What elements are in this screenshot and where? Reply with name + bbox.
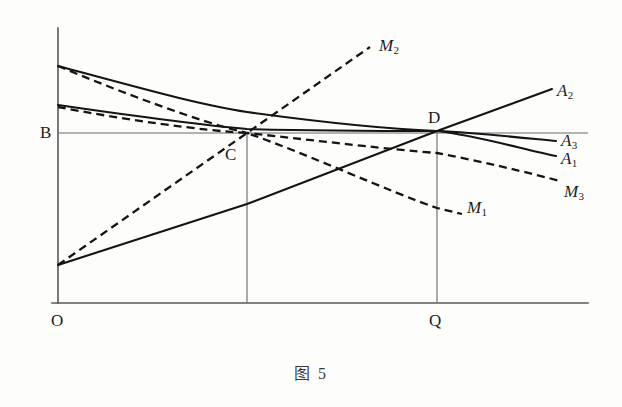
label-m1: M1 — [467, 198, 487, 218]
label-c: C — [225, 145, 236, 165]
curve-m2 — [58, 47, 370, 265]
label-o: O — [51, 311, 63, 331]
economics-figure: B O Q C D A2 A3 A1 M3 M2 M1 图 5 — [0, 0, 622, 407]
label-a1-subscript: 1 — [572, 157, 578, 169]
label-m1-subscript: 1 — [481, 206, 487, 218]
figure-caption: 图 5 — [0, 360, 622, 384]
label-a1: A1 — [561, 149, 577, 169]
label-m2-subscript: 2 — [393, 44, 399, 56]
label-a2-base: A — [557, 81, 567, 100]
label-m2-base: M — [379, 36, 393, 55]
curve-m3 — [58, 66, 560, 181]
label-b: B — [40, 123, 51, 143]
label-m3-base: M — [564, 182, 578, 201]
label-m3-subscript: 3 — [578, 190, 584, 202]
label-a2: A2 — [557, 81, 573, 101]
label-a3-base: A — [561, 131, 571, 150]
curve-a1 — [58, 105, 556, 156]
label-a1-base: A — [561, 149, 571, 168]
label-a2-subscript: 2 — [568, 89, 574, 101]
label-m1-base: M — [467, 198, 481, 217]
figure-canvas — [0, 0, 622, 407]
label-m3: M3 — [564, 182, 584, 202]
label-q: Q — [429, 311, 441, 331]
label-d: D — [428, 108, 440, 128]
label-m2: M2 — [379, 36, 399, 56]
